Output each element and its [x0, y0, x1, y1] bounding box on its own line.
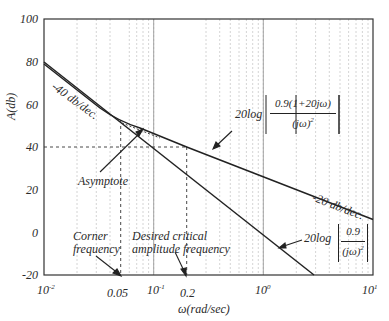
equation1-prefix: 20log — [235, 108, 262, 120]
equation1-numerator: 0.9(1+20jω) — [268, 98, 338, 109]
x-tick-1: 100 — [255, 284, 271, 296]
y-tick-40: 40 — [8, 141, 38, 153]
y-tick-0: 0 — [8, 227, 38, 239]
asymptote-label: Asymptote — [78, 175, 128, 187]
x-tick-0.05: 0.05 — [107, 287, 128, 299]
equation1-fraction-bar — [270, 113, 336, 114]
y-axis-label: A(db) — [5, 93, 17, 120]
y-tick-80: 80 — [8, 56, 38, 68]
corner-frequency-label-line2: frequency — [73, 243, 120, 255]
x-tick-0.01: 10-2 — [37, 284, 55, 296]
equation2-fraction-bar — [341, 241, 365, 242]
x-tick-0.2: 0.2 — [180, 287, 195, 299]
equation2-numerator: 0.9 — [340, 226, 366, 237]
y-tick-20: 20 — [8, 184, 38, 196]
x-axis-label: ω(rad/sec) — [178, 303, 230, 315]
equation2-prefix: 20log — [304, 232, 331, 244]
desired-frequency-label-line2: amplitude frequency — [132, 243, 230, 255]
y-tick-minus20: -20 — [8, 269, 38, 281]
equation2-denominator: (jω)2 — [340, 245, 366, 257]
equation1-denominator: (jω)2 — [268, 117, 338, 129]
x-tick-0.1: 10-1 — [147, 284, 165, 296]
desired-frequency-label-line1: Desired critical — [132, 230, 207, 242]
equation2-abs-right — [367, 224, 368, 262]
corner-frequency-label-line1: Corner — [73, 230, 108, 242]
y-tick-100: 100 — [8, 13, 38, 25]
x-tick-10: 101 — [362, 284, 378, 296]
bode-plot — [0, 0, 389, 321]
equation2-abs-left — [338, 224, 339, 262]
